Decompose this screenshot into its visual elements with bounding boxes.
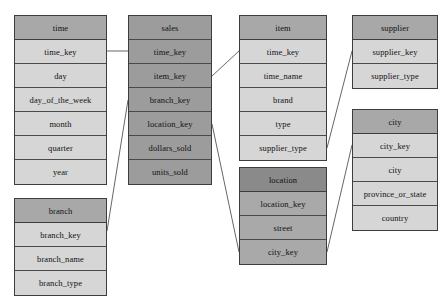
field-item-supplier_type[interactable]: supplier_type: [240, 136, 326, 160]
field-sales-dollars_sold[interactable]: dollars_sold: [129, 136, 211, 160]
table-branch-title: branch: [15, 199, 106, 223]
field-item-time_key[interactable]: time_key: [240, 40, 326, 64]
table-sales-title: sales: [129, 16, 211, 40]
field-time-day_of_the_week[interactable]: day_of_the_week: [15, 88, 106, 112]
field-sales-units_sold[interactable]: units_sold: [129, 160, 211, 184]
field-time-year[interactable]: year: [15, 160, 106, 184]
field-city-city[interactable]: city: [353, 158, 437, 182]
field-item-type[interactable]: type: [240, 112, 326, 136]
field-supplier-supplier_key[interactable]: supplier_key: [353, 40, 437, 64]
connector-branch-sales: [107, 100, 128, 231]
field-time-quarter[interactable]: quarter: [15, 136, 106, 160]
connector-item-supplier: [327, 51, 352, 148]
field-sales-item_key[interactable]: item_key: [129, 64, 211, 88]
table-city[interactable]: citycity_keycityprovince_or_statecountry: [352, 109, 438, 231]
field-branch-branch_key[interactable]: branch_key: [15, 223, 106, 247]
table-time[interactable]: timetime_keydayday_of_the_weekmonthquart…: [14, 15, 107, 185]
field-city-country[interactable]: country: [353, 206, 437, 230]
field-location-location_key[interactable]: location_key: [240, 192, 326, 216]
schema-diagram-canvas: timetime_keydayday_of_the_weekmonthquart…: [0, 0, 448, 304]
connector-sales-location: [212, 124, 239, 252]
field-supplier-supplier_type[interactable]: supplier_type: [353, 64, 437, 88]
field-city-province_or_state[interactable]: province_or_state: [353, 182, 437, 206]
table-time-title: time: [15, 16, 106, 40]
field-location-street[interactable]: street: [240, 216, 326, 240]
field-location-city_key[interactable]: city_key: [240, 240, 326, 264]
table-supplier-title: supplier: [353, 16, 437, 40]
field-time-month[interactable]: month: [15, 112, 106, 136]
field-sales-location_key[interactable]: location_key: [129, 112, 211, 136]
table-branch[interactable]: branchbranch_keybranch_namebranch_type: [14, 198, 107, 296]
field-item-brand[interactable]: brand: [240, 88, 326, 112]
field-branch-branch_type[interactable]: branch_type: [15, 271, 106, 295]
table-location[interactable]: locationlocation_keystreetcity_key: [239, 167, 327, 265]
field-time-time_key[interactable]: time_key: [15, 40, 106, 64]
field-sales-branch_key[interactable]: branch_key: [129, 88, 211, 112]
connector-sales-item: [212, 51, 239, 76]
field-city-city_key[interactable]: city_key: [353, 134, 437, 158]
table-supplier[interactable]: suppliersupplier_keysupplier_type: [352, 15, 438, 89]
table-item-title: item: [240, 16, 326, 40]
table-location-title: location: [240, 168, 326, 192]
table-city-title: city: [353, 110, 437, 134]
field-sales-time_key[interactable]: time_key: [129, 40, 211, 64]
table-sales[interactable]: salestime_keyitem_keybranch_keylocation_…: [128, 15, 212, 185]
table-item[interactable]: itemtime_keytime_namebrandtypesupplier_t…: [239, 15, 327, 161]
field-item-time_name[interactable]: time_name: [240, 64, 326, 88]
connector-location-city: [327, 145, 352, 252]
field-branch-branch_name[interactable]: branch_name: [15, 247, 106, 271]
field-time-day[interactable]: day: [15, 64, 106, 88]
